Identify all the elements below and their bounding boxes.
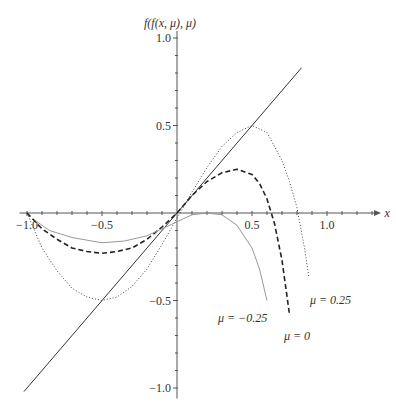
y-axis-label: f(f(x, μ), μ) — [144, 16, 196, 30]
x-tick-label: 0.5 — [245, 218, 260, 232]
axes: −1.0−0.50.51.0 1.00.5−0.5−1.0 x f(f(x, μ… — [16, 16, 390, 399]
y-tick-label: 0.5 — [156, 119, 171, 133]
annotation-mu-neg-0.25: μ = −0.25 — [217, 311, 267, 325]
annotations: μ = 0.25 μ = −0.25 μ = 0 — [217, 293, 351, 343]
x-tick-label: −0.5 — [91, 218, 113, 232]
series-group — [24, 68, 309, 392]
annotation-mu-0.25: μ = 0.25 — [309, 293, 351, 307]
x-tick-labels: −1.0−0.50.51.0 — [16, 218, 334, 232]
y-tick-label: 1.0 — [156, 31, 171, 45]
series-line-mu_-0.25 — [35, 213, 268, 301]
series-line-identity — [24, 68, 302, 392]
y-tick-label: −0.5 — [149, 294, 171, 308]
x-tick-label: 1.0 — [320, 218, 335, 232]
annotation-mu-0: μ = 0 — [283, 329, 310, 343]
x-axis-arrow-icon — [374, 210, 381, 216]
y-tick-label: −1.0 — [149, 381, 171, 395]
x-axis-label: x — [384, 206, 391, 220]
chart: −1.0−0.50.51.0 1.00.5−0.5−1.0 x f(f(x, μ… — [0, 0, 396, 407]
